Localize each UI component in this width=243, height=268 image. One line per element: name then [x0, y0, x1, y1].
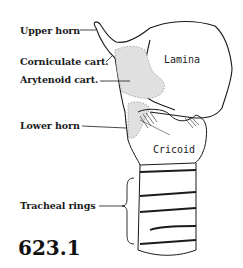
arytenoid-region: [115, 46, 164, 138]
label-arytenoid-cartilage: Arytenoid cart.: [20, 74, 98, 85]
tracheal-brace: [122, 178, 134, 244]
label-lamina: Lamina: [164, 54, 200, 65]
label-corniculate-cartilage: Corniculate cart.: [20, 56, 109, 67]
trachea: [138, 163, 196, 255]
label-lower-horn: Lower horn: [20, 120, 80, 131]
label-upper-horn: Upper horn: [20, 25, 80, 36]
figure-number: 623.1: [18, 236, 81, 260]
larynx-illustration: [0, 0, 243, 268]
label-tracheal-rings: Tracheal rings: [20, 200, 95, 211]
label-cricoid: Cricoid: [153, 144, 195, 155]
figure-canvas: Upper horn Corniculate cart. Arytenoid c…: [0, 0, 243, 268]
